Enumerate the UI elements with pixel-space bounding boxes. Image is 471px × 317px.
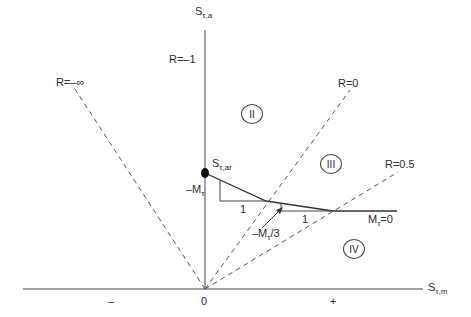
origin-label: 0 [201,296,207,307]
vertical-axis-label: Sτ,a [195,6,212,20]
slope3-label: Mτ=0 [368,214,393,228]
fatigue-limit-curve [205,173,397,211]
r-half-line [205,172,398,289]
r-minus-infinity-label: R=–∞ [56,77,84,88]
negative-label: – [108,296,114,307]
r-zero-label: R=0 [338,78,359,89]
slope2-label: –Mτ/3 [252,228,280,242]
s-tau-ar-point [201,168,209,178]
region-ii-badge: II [241,104,263,124]
slope1-label: –Mτ [186,184,204,198]
r-half-label: R=0.5 [385,159,415,170]
r-minus-one-label: R=–1 [169,54,196,65]
region-iv-badge: IV [343,239,365,259]
r-zero-line [205,90,350,289]
positive-label: + [330,296,336,307]
s-tau-ar-label: Sτ,ar [212,158,232,172]
region-iii-badge: III [320,154,342,174]
horizontal-axis-label: Sτ,m [428,282,447,296]
slope2-run-label: 1 [302,214,308,225]
slope1-run-label: 1 [240,204,246,215]
